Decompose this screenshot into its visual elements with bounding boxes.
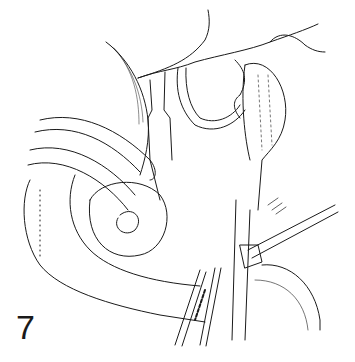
colon (24, 180, 205, 322)
textured-mass (89, 182, 167, 256)
instrument (248, 205, 338, 258)
gallbladder (245, 63, 286, 210)
liver-outline (138, 10, 209, 78)
stomach-curve (106, 42, 148, 175)
surgical-illustration (0, 0, 355, 362)
vessel-1 (148, 80, 160, 200)
clamp (175, 268, 221, 346)
figure-number: 7 (16, 310, 35, 344)
lower-bowel (262, 265, 320, 330)
illustration-canvas: 7 (0, 0, 355, 362)
